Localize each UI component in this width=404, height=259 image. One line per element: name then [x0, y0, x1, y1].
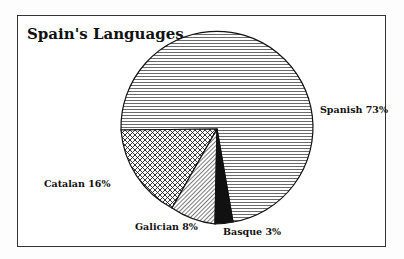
- label-basque: Basque 3%: [223, 226, 281, 237]
- label-spanish: Spanish 73%: [320, 104, 388, 115]
- label-catalan: Catalan 16%: [44, 178, 111, 189]
- pie-chart: [0, 0, 404, 259]
- label-galician: Galician 8%: [135, 221, 198, 232]
